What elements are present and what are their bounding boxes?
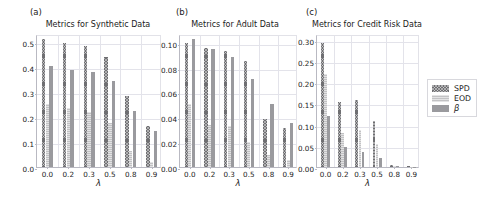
legend-swatch-icon: [432, 85, 449, 92]
legend-item-beta[interactable]: β: [432, 103, 471, 113]
x-axis-label: λ: [365, 178, 370, 188]
y-tick-label: 0.10: [298, 122, 314, 131]
x-tick-label: 0.9: [406, 170, 417, 179]
x-tick-label: 0.3: [354, 170, 365, 179]
x-tick-label: 0.0: [320, 170, 331, 179]
bar-beta: [344, 147, 347, 167]
bar-beta: [396, 166, 399, 167]
y-tick-label: 0.00: [298, 165, 314, 174]
bar-beta: [413, 167, 416, 168]
x-gridline: [403, 36, 404, 167]
y-tick-label: 0.20: [298, 80, 314, 89]
legend-label: β: [454, 103, 459, 113]
chart-title-c: Metrics for Credit Risk Data: [308, 20, 426, 29]
x-tick-label: 0.5: [371, 170, 382, 179]
y-tickmark: [315, 169, 317, 170]
chart-panel-c: (c)Metrics for Credit Risk Data0.000.050…: [0, 0, 490, 208]
y-tickmark: [315, 84, 317, 85]
legend: SPDEODβ: [427, 79, 477, 117]
y-tick-label: 0.15: [298, 101, 314, 110]
x-gridline: [386, 36, 387, 167]
legend-swatch-icon: [432, 95, 449, 102]
bar-beta: [379, 158, 382, 167]
legend-swatch-icon: [432, 105, 449, 112]
x-gridline: [334, 36, 335, 167]
x-tick-label: 0.8: [389, 170, 400, 179]
legend-label: SPD: [454, 84, 470, 93]
bar-beta: [327, 116, 330, 167]
figure-root: (a)Metrics for Synthetic Data0.00.10.20.…: [0, 0, 490, 208]
y-tickmark: [315, 105, 317, 106]
y-tickmark: [315, 148, 317, 149]
x-tick-label: 0.2: [337, 170, 348, 179]
y-tickmark: [315, 127, 317, 128]
x-gridline: [369, 36, 370, 167]
legend-item-eod[interactable]: EOD: [432, 93, 471, 103]
y-tickmark: [315, 63, 317, 64]
y-tick-label: 0.05: [298, 143, 314, 152]
x-gridline: [351, 36, 352, 167]
bar-beta: [362, 152, 365, 167]
y-tick-label: 0.25: [298, 58, 314, 67]
legend-label: EOD: [454, 94, 471, 103]
y-tickmark: [315, 42, 317, 43]
legend-item-spd[interactable]: SPD: [432, 83, 471, 93]
panel-tag-c: (c): [306, 7, 317, 17]
plot-area-c: 0.000.050.100.150.200.250.300.00.20.30.5…: [316, 35, 419, 168]
y-tick-label: 0.30: [298, 37, 314, 46]
